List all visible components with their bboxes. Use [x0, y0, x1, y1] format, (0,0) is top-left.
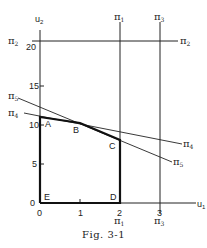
label-pi2-right: π2: [180, 35, 191, 47]
vertex-label-b: B: [73, 125, 79, 135]
feasible-region-diagram: u2 u1 20 15 10 5 0 0 1 2 3 π1 π3 π2 π2 π…: [0, 0, 207, 248]
label-pi1-top: π1: [114, 11, 124, 23]
vertex-label-c: C: [109, 141, 116, 151]
label-pi2-left: π2: [8, 35, 19, 47]
vertex-label-a: A: [45, 119, 51, 129]
tick-label-y-15: 15: [29, 81, 39, 91]
label-pi4-left: π4: [8, 107, 19, 119]
label-pi5-left: π5: [8, 90, 19, 102]
label-pi3-top: π3: [154, 11, 165, 23]
tick-label-x-0: 0: [37, 208, 42, 218]
label-pi3-bottom: π3: [154, 215, 165, 227]
vertex-label-d: D: [110, 192, 117, 202]
tick-label-y-0: 0: [30, 198, 35, 208]
vertex-label-e: E: [44, 192, 50, 202]
label-pi5-right: π5: [173, 156, 184, 168]
u2-axis-label: u2: [35, 14, 44, 25]
tick-label-y-20: 20: [26, 42, 36, 52]
tick-label-y-10: 10: [29, 120, 39, 130]
tick-label-y-5: 5: [32, 159, 37, 169]
label-pi1-bottom: π1: [114, 215, 124, 227]
figure-caption: Fig. 3-1: [0, 229, 207, 240]
u1-axis-label: u1: [197, 199, 206, 210]
label-pi4-right: π4: [183, 138, 194, 150]
tick-label-x-1: 1: [78, 208, 83, 218]
